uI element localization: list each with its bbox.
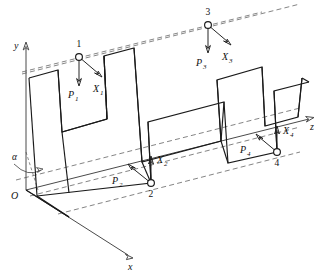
node-2-marker[interactable] xyxy=(148,180,155,187)
node-3-group[interactable]: 3 P 3 X 3 xyxy=(195,7,233,71)
dashed-guide-floor xyxy=(58,152,300,214)
diagram-canvas: 1 P 1 X 1 2 P 2 X 2 3 P 3 xyxy=(0,0,325,275)
node-4-force-label: P xyxy=(239,144,246,155)
origin-label: O xyxy=(11,190,18,201)
node-3-number-label: 3 xyxy=(206,7,211,17)
panel-1-bottom-edge xyxy=(62,119,107,132)
depth-edge-right-end xyxy=(302,78,309,82)
node-1-force-sublabel: 1 xyxy=(75,95,79,103)
node-4-reaction-sublabel: 4 xyxy=(290,131,294,139)
node-3-marker[interactable] xyxy=(205,22,212,29)
coordinate-axes xyxy=(23,42,314,260)
x-axis-arrowhead xyxy=(126,254,134,259)
node-4-force-sublabel: 4 xyxy=(247,150,251,158)
node-4-group[interactable]: 4 P 4 X 4 xyxy=(239,125,294,168)
node-3-reaction-sublabel: 3 xyxy=(228,57,233,65)
node-4-reaction-label: X xyxy=(282,125,290,136)
angle-alpha-marker xyxy=(14,164,43,173)
panel-3-bottom-edge xyxy=(221,102,224,141)
node-1-reaction-sublabel: 1 xyxy=(100,89,104,97)
node-1-marker[interactable] xyxy=(76,54,83,61)
plate-outline-upper-profile xyxy=(29,48,302,162)
z-axis-label: z xyxy=(309,121,314,132)
node-2-reaction-sublabel: 2 xyxy=(164,160,168,168)
node-1-group[interactable]: 1 P 1 X 1 xyxy=(67,39,104,103)
x-axis-label: x xyxy=(127,261,133,272)
node-3-force-sublabel: 3 xyxy=(202,63,207,71)
node-2-force-label: P xyxy=(111,175,118,186)
node-2-force-sublabel: 2 xyxy=(119,181,123,189)
step-riser-1 xyxy=(58,70,62,132)
stepped-plate-body xyxy=(26,48,309,217)
dashed-guide-middle xyxy=(22,4,300,74)
node-2-number-label: 2 xyxy=(149,189,154,199)
node-3-reaction-X3-arrowhead xyxy=(224,39,231,45)
node-3-force-label: P xyxy=(195,57,202,68)
step-riser-4 xyxy=(217,80,221,141)
node-1-number-label: 1 xyxy=(77,39,82,49)
y-axis-label: y xyxy=(13,40,19,51)
node-4-marker[interactable] xyxy=(274,149,281,156)
figure-container: 1 P 1 X 1 2 P 2 X 2 3 P 3 xyxy=(0,0,325,275)
node-1-reaction-label: X xyxy=(92,83,100,94)
node-2-reaction-label: X xyxy=(156,154,164,165)
panel-1-right-edge xyxy=(104,56,107,119)
node-1-force-label: P xyxy=(67,89,74,100)
alpha-angle-label: α xyxy=(12,152,18,162)
node-4-number-label: 4 xyxy=(275,158,280,168)
depth-edge-node1-left xyxy=(62,132,69,193)
plate-left-end-edge xyxy=(29,78,37,196)
base-floor-left-edge xyxy=(37,196,69,217)
node-1-reaction-X1-arrowhead xyxy=(95,71,102,77)
construction-dashed-lines xyxy=(16,4,300,214)
node-3-reaction-label: X xyxy=(221,51,229,62)
step-riser-3 xyxy=(134,48,142,162)
node-2-group[interactable]: 2 P 2 X 2 xyxy=(111,154,168,199)
